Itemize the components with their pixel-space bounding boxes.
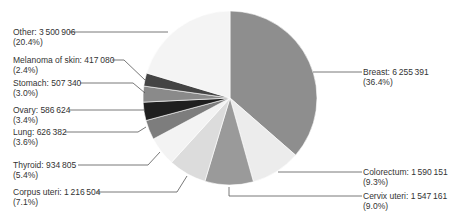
label-lung-percent: (3.6%)	[13, 137, 67, 147]
leader-line-cervix	[229, 187, 362, 196]
label-colorectum-percent: (9.3%)	[363, 177, 448, 187]
leader-line-melanoma	[112, 60, 145, 80]
leader-line-corpus	[96, 176, 187, 192]
label-melanoma-value: Melanoma of skin: 417 080	[13, 55, 114, 65]
label-ovary: Ovary: 586 624 (3.4%)	[13, 105, 70, 125]
leader-line-thyroid	[78, 152, 160, 165]
label-lung-value: Lung: 626 382	[13, 127, 67, 137]
label-stomach-value: Stomach: 507 340	[13, 78, 81, 88]
label-stomach-percent: (3.0%)	[13, 88, 81, 98]
label-ovary-value: Ovary: 586 624	[13, 105, 70, 115]
leader-line-lung	[65, 127, 146, 132]
label-corpus-uteri: Corpus uteri: 1 216 504 (7.1%)	[13, 187, 101, 207]
label-breast-value: Breast: 6 255 391	[363, 67, 429, 77]
label-corpus-value: Corpus uteri: 1 216 504	[13, 187, 101, 197]
pie-slices	[143, 11, 317, 185]
label-thyroid: Thyroid: 934 805 (5.4%)	[13, 160, 76, 180]
label-thyroid-percent: (5.4%)	[13, 170, 76, 180]
label-thyroid-value: Thyroid: 934 805	[13, 160, 76, 170]
label-other-value: Other: 3 500 906	[13, 27, 75, 37]
label-other: Other: 3 500 906 (20.4%)	[13, 27, 75, 47]
label-melanoma-percent: (2.4%)	[13, 65, 114, 75]
label-stomach: Stomach: 507 340 (3.0%)	[13, 78, 81, 98]
label-cervix-percent: (9.0%)	[363, 201, 447, 211]
label-breast-percent: (36.4%)	[363, 77, 429, 87]
label-colorectum-value: Colorectum: 1 590 151	[363, 167, 448, 177]
label-cervix-value: Cervix uteri: 1 547 161	[363, 191, 447, 201]
leader-line-stomach	[80, 83, 145, 93]
label-breast: Breast: 6 255 391 (36.4%)	[363, 67, 429, 87]
label-lung: Lung: 626 382 (3.6%)	[13, 127, 67, 147]
label-cervix-uteri: Cervix uteri: 1 547 161 (9.0%)	[363, 191, 447, 211]
label-ovary-percent: (3.4%)	[13, 115, 70, 125]
label-colorectum: Colorectum: 1 590 151 (9.3%)	[363, 167, 448, 187]
label-corpus-percent: (7.1%)	[13, 197, 101, 207]
label-other-percent: (20.4%)	[13, 37, 75, 47]
label-melanoma: Melanoma of skin: 417 080 (2.4%)	[13, 55, 114, 75]
